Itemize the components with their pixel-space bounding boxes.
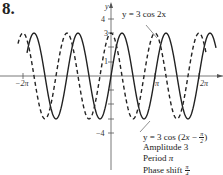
y-tick-label-1: 1: [104, 57, 108, 66]
y-axis-label: y: [104, 2, 109, 11]
x-tick-label-neg2pi: −2π: [15, 79, 29, 88]
solid-label-suffix: ): [204, 132, 207, 142]
y-axis-arrow-icon: [109, 2, 113, 8]
y-tick-label-4: 4: [101, 15, 105, 24]
period-label: Period π: [143, 153, 173, 164]
cosine-graph: y 4 3 1 −4 −2π π 2π: [0, 0, 223, 175]
leader-line-dashed: [146, 25, 157, 38]
y-tick-label-neg4: −4: [96, 129, 105, 138]
x-axis-arrow-icon: [217, 74, 223, 78]
x-tick-label-2pi: 2π: [200, 79, 209, 88]
x-tick-label-pi: π: [155, 79, 160, 88]
amplitude-label: Amplitude 3: [143, 142, 188, 153]
dashed-curve-label: y = 3 cos 2x: [121, 9, 167, 20]
pi-over-4-fraction: π4: [185, 164, 190, 175]
phase-shift-label: Phase shift π4: [143, 164, 190, 175]
solid-label-minus: −: [190, 132, 200, 142]
solid-label-prefix: y = 3 cos (2: [143, 132, 186, 142]
